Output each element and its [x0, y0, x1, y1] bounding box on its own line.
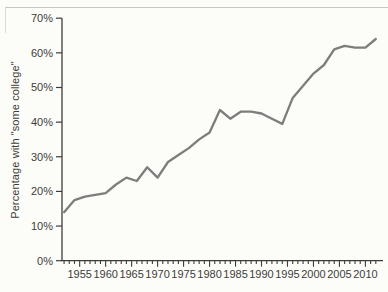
x-tick-label: 1975	[171, 268, 195, 280]
x-tick-label: 1980	[197, 268, 221, 280]
x-tick-label: 2000	[301, 268, 325, 280]
line-chart-figure: Percentage with "some college" 0%10%20%3…	[0, 0, 388, 292]
x-tick-label: 1970	[145, 268, 169, 280]
y-tick-label: 20%	[31, 185, 53, 197]
x-tick-label: 1990	[249, 268, 273, 280]
x-tick-label: 1965	[119, 268, 143, 280]
x-tick-label: 2010	[353, 268, 377, 280]
x-tick-label: 1985	[223, 268, 247, 280]
data-line-some-college	[64, 39, 376, 212]
y-tick-label: 40%	[31, 116, 53, 128]
y-tick-label: 50%	[31, 81, 53, 93]
y-tick-label: 0%	[37, 255, 53, 267]
y-tick-label: 60%	[31, 47, 53, 59]
x-tick-label: 1995	[275, 268, 299, 280]
x-tick-label: 1955	[67, 268, 91, 280]
x-tick-label: 2005	[327, 268, 351, 280]
x-tick-label: 1960	[93, 268, 117, 280]
y-tick-label: 30%	[31, 151, 53, 163]
y-tick-label: 70%	[31, 12, 53, 24]
y-tick-label: 10%	[31, 220, 53, 232]
scanned-page: Percentage with "some college" 0%10%20%3…	[0, 0, 388, 292]
line-chart: 0%10%20%30%40%50%60%70%19551960196519701…	[0, 0, 388, 292]
